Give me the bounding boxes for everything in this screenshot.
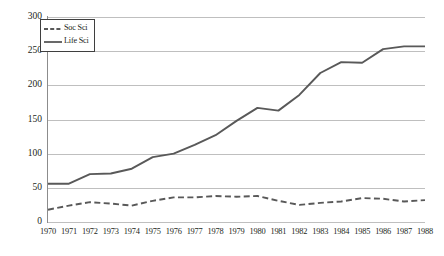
x-axis-tick-label: 1984 [333, 228, 349, 236]
legend-item-life-sci[interactable]: Life Sci [44, 35, 92, 48]
y-axis-tick-label: 0 [6, 217, 42, 227]
x-axis-tick-label: 1972 [82, 228, 98, 236]
series-layer [48, 17, 425, 222]
gridline [48, 222, 425, 223]
x-axis-tick-label: 1978 [208, 228, 224, 236]
x-axis-tick-label: 1976 [166, 228, 182, 236]
x-axis-tick-label: 1982 [291, 228, 307, 236]
series-line-life-sci [48, 46, 425, 183]
dashed-line-icon [44, 24, 62, 34]
x-axis-tick-label: 1977 [187, 228, 203, 236]
x-axis-tick-label: 1980 [249, 228, 265, 236]
solid-line-icon [44, 37, 62, 47]
y-axis-tick-label: 250 [6, 46, 42, 56]
chart-legend: Soc Sci Life Sci [40, 19, 95, 52]
y-axis-tick-label: 100 [6, 149, 42, 159]
plot-area [48, 17, 425, 222]
x-axis-tick-label: 1985 [354, 228, 370, 236]
y-axis-tick-label: 200 [6, 81, 42, 91]
x-axis-tick-label: 1979 [229, 228, 245, 236]
legend-label-soc-sci: Soc Sci [64, 24, 87, 32]
legend-label-life-sci: Life Sci [64, 37, 89, 45]
x-axis-tick-label: 1986 [375, 228, 391, 236]
series-line-soc-sci [48, 196, 425, 210]
y-axis-tick-label: 300 [6, 12, 42, 22]
y-axis-tick-label: 150 [6, 115, 42, 125]
x-axis-tick-label: 1987 [396, 228, 412, 236]
line-chart: 050100150200250300 197019711972197319741… [0, 0, 444, 256]
x-axis-tick-label: 1988 [417, 228, 433, 236]
x-axis-tick-label: 1974 [124, 228, 140, 236]
x-axis-tick-label: 1971 [61, 228, 77, 236]
legend-item-soc-sci[interactable]: Soc Sci [44, 22, 92, 35]
x-axis-tick-labels: 1970197119721973197419751976197719781979… [48, 228, 425, 242]
y-axis-tick-label: 50 [6, 183, 42, 193]
x-axis-tick-label: 1981 [270, 228, 286, 236]
x-axis-tick-label: 1970 [40, 228, 56, 236]
x-axis-tick-label: 1975 [145, 228, 161, 236]
x-axis-tick-label: 1973 [103, 228, 119, 236]
x-axis-tick-label: 1983 [312, 228, 328, 236]
